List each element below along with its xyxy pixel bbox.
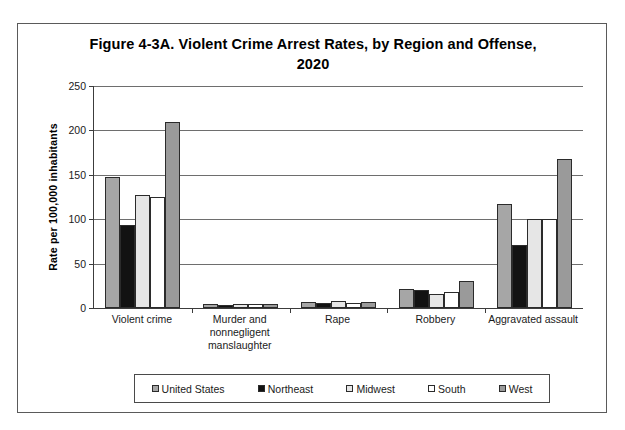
bar-group (485, 86, 583, 308)
bar (331, 301, 346, 308)
x-axis-labels: Violent crimeMurder and nonnegligent man… (93, 313, 582, 352)
bar (248, 304, 263, 308)
bar (497, 204, 512, 308)
bar (203, 304, 218, 308)
legend-label: Midwest (356, 383, 395, 395)
y-axis-title: Rate per 100,000 inhabitants (45, 86, 61, 308)
legend-item[interactable]: United States (152, 383, 225, 395)
bar (512, 245, 527, 308)
legend-label: South (438, 383, 465, 395)
x-axis-label: Aggravated assault (484, 313, 582, 352)
bar-group (192, 86, 290, 308)
bar (218, 305, 233, 308)
y-axis-tick (89, 308, 94, 309)
x-axis-label: Robbery (386, 313, 484, 352)
bar (346, 303, 361, 308)
bar (459, 281, 474, 308)
bar (542, 219, 557, 308)
bar-group (290, 86, 388, 308)
bar (444, 292, 459, 308)
bar-group (94, 86, 192, 308)
legend-item[interactable]: Northeast (258, 383, 314, 395)
chart-legend: United StatesNortheastMidwestSouthWest (134, 374, 550, 403)
legend-item[interactable]: Midwest (346, 383, 395, 395)
bar (165, 122, 180, 308)
bar (361, 302, 376, 308)
bar-group (387, 86, 485, 308)
bar (316, 303, 331, 308)
legend-label: Northeast (268, 383, 314, 395)
bar (135, 195, 150, 308)
legend-item[interactable]: West (499, 383, 533, 395)
bar (301, 302, 316, 308)
bar (233, 304, 248, 308)
plot-area: 050100150200250 (93, 86, 583, 309)
y-axis-tick-label: 200 (68, 124, 86, 136)
y-axis-tick-label: 100 (68, 213, 86, 225)
legend-swatch-icon (346, 385, 353, 392)
legend-label: United States (162, 383, 225, 395)
legend-swatch-icon (152, 385, 159, 392)
legend-swatch-icon (499, 385, 506, 392)
y-axis-tick-label: 0 (80, 302, 86, 314)
y-axis-tick-label: 250 (68, 80, 86, 92)
bar (414, 290, 429, 308)
bars-layer (94, 86, 583, 308)
y-axis-title-text: Rate per 100,000 inhabitants (47, 123, 59, 270)
legend-label: West (509, 383, 533, 395)
bar (120, 225, 135, 308)
bar (105, 177, 120, 308)
y-axis-tick-label: 150 (68, 169, 86, 181)
legend-item[interactable]: South (428, 383, 465, 395)
bar (527, 219, 542, 308)
bar (429, 294, 444, 308)
bar (263, 304, 278, 308)
bar (399, 289, 414, 308)
legend-swatch-icon (428, 385, 435, 392)
y-axis-tick-label: 50 (74, 258, 86, 270)
x-axis-label: Murder and nonnegligent manslaughter (191, 313, 289, 352)
x-axis-label: Violent crime (93, 313, 191, 352)
legend-swatch-icon (258, 385, 265, 392)
figure-container: Figure 4-3A. Violent Crime Arrest Rates,… (17, 23, 607, 413)
chart-title: Figure 4-3A. Violent Crime Arrest Rates,… (73, 34, 553, 74)
bar (557, 159, 572, 308)
x-axis-label: Rape (289, 313, 387, 352)
bar (150, 197, 165, 308)
